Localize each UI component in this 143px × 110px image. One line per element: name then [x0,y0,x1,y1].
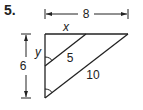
label-outer-hypotenuse: 10 [86,68,100,82]
width-label: 8 [83,7,90,21]
label-inner-hypotenuse: 5 [67,51,74,65]
label-x: x [62,20,70,34]
similar-triangles-diagram: 8 6 x y 5 10 [0,0,143,110]
triangle-lines [45,34,128,98]
label-y: y [34,45,42,59]
height-label: 6 [20,59,27,73]
